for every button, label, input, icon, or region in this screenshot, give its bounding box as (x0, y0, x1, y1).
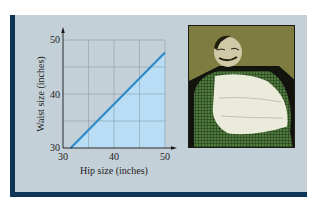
y-tick-40: 40 (50, 89, 60, 100)
portly-man-illustration (189, 26, 295, 148)
y-axis-arrow-icon (61, 27, 65, 33)
y-axis-label: Waist size (inches) (35, 56, 47, 131)
illustration-man (188, 25, 295, 148)
x-tick-30: 30 (58, 151, 68, 162)
x-tick-40: 40 (109, 151, 119, 162)
x-tick-50: 50 (160, 151, 170, 162)
x-axis-label: Hip size (inches) (80, 165, 148, 177)
y-tick-50: 50 (50, 34, 60, 45)
x-axis-arrow-icon (171, 146, 177, 150)
